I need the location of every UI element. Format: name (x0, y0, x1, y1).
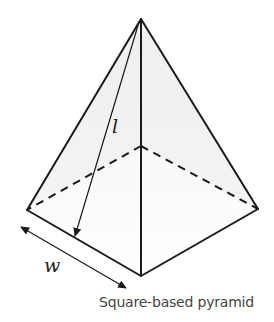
slant-height-label: l (112, 115, 118, 137)
width-label: w (44, 254, 60, 276)
pyramid-diagram: l w (0, 0, 274, 322)
diagram-caption: Square-based pyramid (0, 294, 274, 310)
